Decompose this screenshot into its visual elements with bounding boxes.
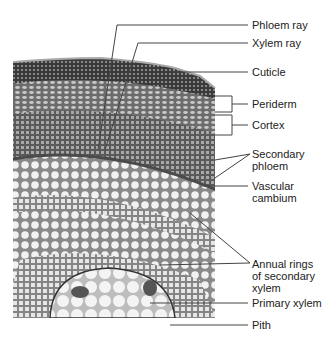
tissue-layers: [0, 0, 220, 330]
label-cuticle: Cuticle: [252, 66, 286, 78]
label-vascular-cambium: Vascular cambium: [252, 180, 297, 204]
label-cortex: Cortex: [252, 119, 284, 131]
label-xylem-ray: Xylem ray: [252, 37, 301, 49]
label-secondary-phloem: Secondary phloem: [252, 148, 305, 172]
stem-cross-section-figure: Phloem ray Xylem ray Cuticle Periderm Co…: [0, 0, 329, 349]
label-annual-rings: Annual rings of secondary xylem: [252, 258, 315, 294]
label-pith: Pith: [252, 319, 271, 331]
label-phloem-ray: Phloem ray: [252, 19, 308, 31]
label-periderm: Periderm: [252, 98, 297, 110]
label-primary-xylem: Primary xylem: [252, 297, 322, 309]
